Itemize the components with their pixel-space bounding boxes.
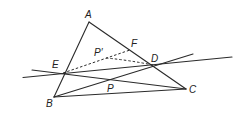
label-f: F	[131, 38, 138, 49]
label-b: B	[46, 98, 53, 109]
label-c: C	[189, 84, 197, 95]
segment-ab	[54, 22, 89, 97]
label-p: P	[107, 83, 114, 94]
geometry-diagram: A B C D E F P′ P	[0, 0, 245, 116]
label-p-prime: P′	[94, 47, 104, 58]
label-e: E	[52, 59, 59, 70]
label-a: A	[84, 9, 92, 20]
segment-bc	[54, 89, 186, 97]
label-d: D	[151, 53, 158, 64]
